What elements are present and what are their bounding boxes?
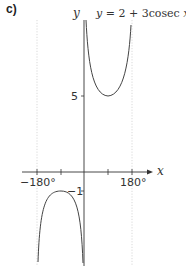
y-axis-label: y <box>72 6 80 20</box>
curve-lower-branch <box>38 191 83 263</box>
cosec-graph: y y = 2 + 3cosec x x 5 −1 −180° 180° <box>0 0 186 268</box>
x-tick-label-neg180: −180° <box>20 176 56 189</box>
curve-upper-branch <box>86 20 131 96</box>
equation-label: y = 2 + 3cosec x <box>95 7 186 20</box>
y-tick-label-neg1: −1 <box>67 185 83 198</box>
y-tick-label-5: 5 <box>71 90 78 103</box>
x-axis-arrow-icon <box>147 170 153 175</box>
x-axis-label: x <box>157 164 164 178</box>
x-tick-label-180: 180° <box>120 176 147 189</box>
